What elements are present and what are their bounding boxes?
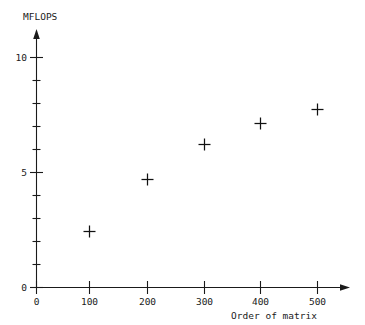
data-point-marker (84, 226, 96, 238)
scatter-plot: 0 5 10 0 100 200 300 400 500 MFLOPS Orde… (0, 0, 365, 325)
data-point-marker (312, 104, 324, 116)
x-axis-title: Order of matrix (231, 310, 317, 321)
y-tick-label-10: 10 (16, 52, 28, 63)
data-point-marker (142, 174, 154, 186)
data-point-marker (255, 118, 267, 130)
y-tick-label-0: 0 (21, 282, 27, 293)
y-tick-label-5: 5 (21, 167, 27, 178)
x-tick-label-0: 0 (34, 296, 40, 307)
y-axis-title: MFLOPS (23, 11, 58, 22)
x-tick-label-300: 300 (196, 296, 213, 307)
x-tick-label-100: 100 (81, 296, 98, 307)
x-tick-label-500: 500 (309, 296, 326, 307)
data-point-marker (199, 139, 211, 151)
x-axis-arrow-icon (340, 284, 350, 291)
x-tick-label-400: 400 (252, 296, 269, 307)
chart-container: 0 5 10 0 100 200 300 400 500 MFLOPS Orde… (0, 0, 365, 325)
x-tick-label-200: 200 (139, 296, 156, 307)
y-axis-arrow-icon (33, 29, 40, 39)
